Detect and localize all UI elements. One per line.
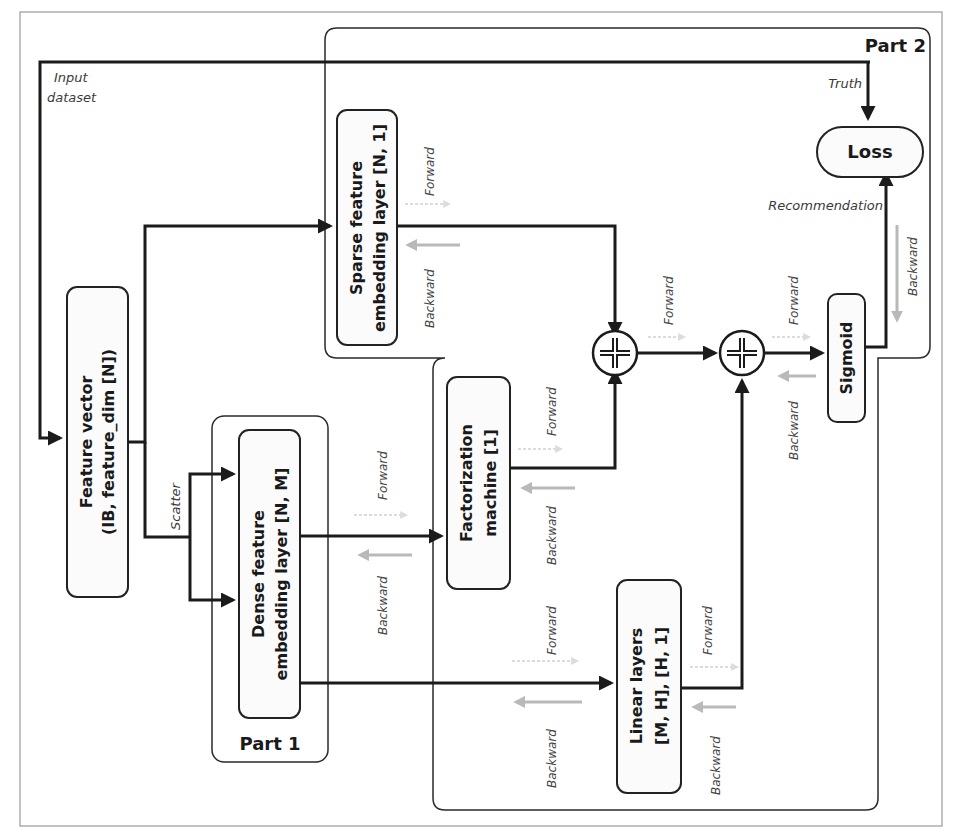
dense-embedding-node: Dense feature embedding layer [N, M] [239, 430, 300, 718]
diagram-canvas: Part 2 Part 1 Input dataset Truth Featur… [0, 0, 953, 837]
sum2-node [720, 331, 764, 375]
loss-node: Loss [817, 127, 923, 177]
linear-out-forward-label: Forward [701, 606, 715, 655]
feature-vector-label-2: (IB, feature_dim [N]) [99, 349, 118, 535]
scatter-label: Scatter [168, 481, 183, 530]
loss-backward-label: Backward [906, 237, 920, 296]
sparse-embedding-label-1: Sparse feature [347, 161, 366, 295]
factorization-machine-node: Factorization machine [1] [447, 377, 510, 589]
loss-label: Loss [847, 141, 892, 162]
part1-label: Part 1 [239, 733, 300, 754]
fm-label-1: Factorization [457, 424, 476, 542]
fm-forward-label: Forward [545, 387, 559, 436]
linear-label-2: [M, H], [H, 1] [652, 627, 671, 745]
sigmoid-label: Sigmoid [837, 321, 856, 394]
sigmoid-node: Sigmoid [828, 294, 865, 422]
sparse-embedding-label-2: embedding layer [N, 1] [370, 124, 389, 332]
fm-backward-label: Backward [545, 506, 559, 565]
linear-in-backward-label: Backward [545, 729, 559, 788]
dense-backward-label: Backward [376, 576, 390, 635]
fv-to-sparse-edge [128, 226, 330, 442]
input-dataset-label-2: dataset [47, 90, 97, 105]
dense-embedding-label-1: Dense feature [249, 510, 268, 638]
feature-vector-label-1: Feature vector [77, 376, 96, 509]
sum1-forward-label: Forward [662, 276, 676, 325]
sum1-node [593, 331, 637, 375]
part2-label: Part 2 [865, 35, 926, 56]
sparse-forward-label: Forward [423, 147, 437, 196]
sum2-forward-label: Forward [787, 276, 801, 325]
feature-vector-node: Feature vector (IB, feature_dim [N]) [67, 287, 128, 597]
linear-label-1: Linear layers [627, 628, 646, 745]
sigmoid-backward-label: Backward [787, 401, 801, 460]
recommendation-label: Recommendation [768, 198, 883, 213]
linear-out-backward-label: Backward [709, 736, 723, 795]
fm-label-2: machine [1] [481, 429, 500, 536]
linear-in-forward-label: Forward [545, 606, 559, 655]
truth-label: Truth [828, 76, 862, 91]
linear-layers-node: Linear layers [M, H], [H, 1] [617, 580, 681, 793]
sparse-embedding-node: Sparse feature embedding layer [N, 1] [337, 110, 397, 345]
input-dataset-label-1: Input [54, 70, 89, 85]
dense-forward-label: Forward [376, 451, 390, 500]
sparse-backward-label: Backward [423, 269, 437, 328]
fm-to-sum1-edge [510, 372, 615, 468]
dense-embedding-label-2: embedding layer [N, M] [272, 468, 291, 681]
